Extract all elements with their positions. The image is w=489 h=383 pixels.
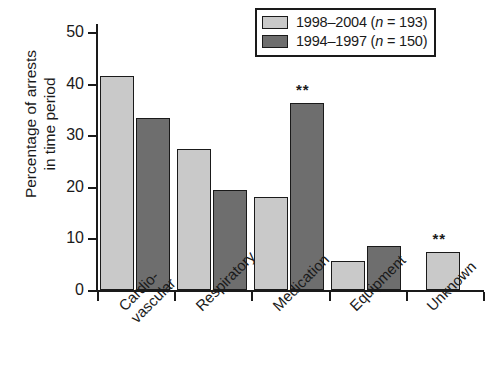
y-tick-label-10: 10: [54, 230, 84, 246]
bar-light-1: [177, 149, 211, 290]
y-tick-label-20: 20: [54, 179, 84, 195]
y-tick-label-40: 40: [54, 76, 84, 92]
y-axis-title-line1: Percentage of arrests: [21, 4, 40, 244]
y-tick-50: [88, 32, 97, 34]
x-tick-2: [251, 292, 253, 301]
x-tick-0: [97, 292, 99, 301]
y-tick-0: [88, 290, 97, 292]
x-tick-3: [329, 292, 331, 301]
bar-light-2: [254, 197, 288, 290]
x-tick-5: [483, 292, 485, 301]
plot-area-bars: ****: [98, 24, 484, 290]
bar-chart-figure: 1998–2004 (n = 193) 1994–1997 (n = 150) …: [0, 0, 489, 383]
significance-marker-2: **: [296, 82, 310, 97]
x-tick-4: [406, 292, 408, 301]
y-axis-tick-labels: 01020304050: [52, 0, 84, 383]
significance-marker-4: **: [432, 231, 446, 246]
y-tick-10: [88, 238, 97, 240]
y-tick-label-0: 0: [54, 282, 84, 298]
y-tick-label-50: 50: [54, 24, 84, 40]
x-tick-1: [174, 292, 176, 301]
y-tick-30: [88, 135, 97, 137]
bar-light-3: [331, 261, 365, 290]
bar-light-0: [100, 76, 134, 290]
y-tick-20: [88, 187, 97, 189]
y-tick-40: [88, 84, 97, 86]
y-tick-label-30: 30: [54, 127, 84, 143]
